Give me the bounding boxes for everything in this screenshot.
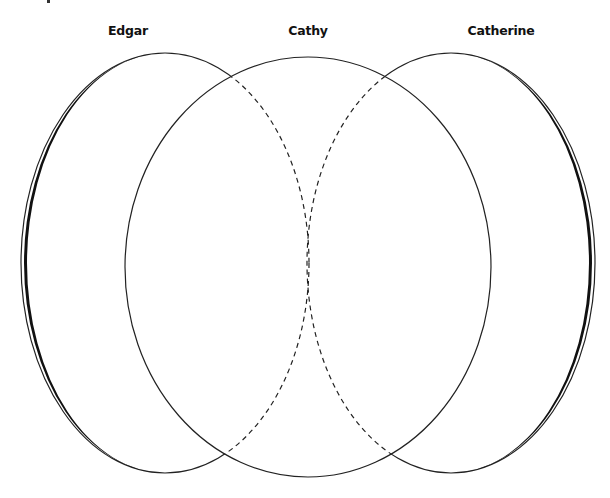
ellipse-edgar: [21, 53, 309, 473]
label-cathy: Cathy: [288, 23, 328, 38]
label-edgar: Edgar: [108, 23, 148, 38]
venn-diagram: [0, 0, 610, 498]
ellipse-catherine: [307, 53, 595, 473]
ellipse-cathy: [125, 57, 491, 477]
label-catherine: Catherine: [468, 23, 535, 38]
